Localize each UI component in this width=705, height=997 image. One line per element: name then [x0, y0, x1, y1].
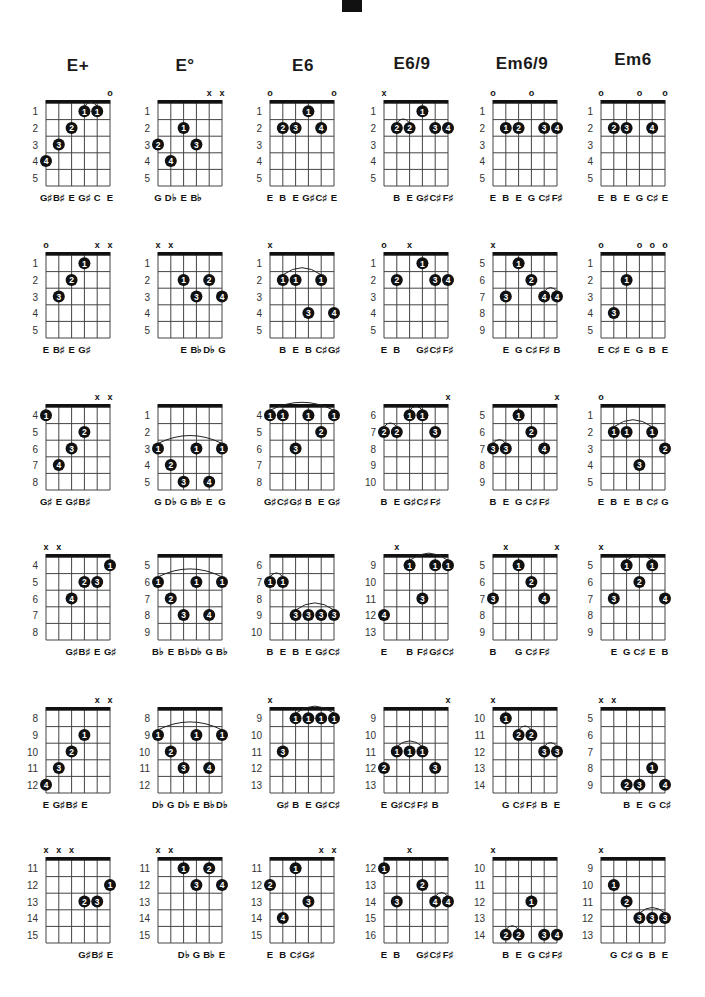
- note-label: B♭: [216, 646, 228, 657]
- note-label: G♯: [40, 192, 52, 203]
- note-label: C♯: [290, 949, 302, 960]
- finger-number: 1: [319, 714, 324, 724]
- note-label: G: [502, 799, 509, 810]
- fret-number: 8: [256, 594, 262, 605]
- note-label: G: [154, 496, 161, 507]
- fret-number: 2: [370, 123, 376, 134]
- fret-number: 3: [587, 292, 593, 303]
- note-label: C♯: [328, 799, 340, 810]
- note-label: G♯: [66, 646, 78, 657]
- nut-bar: [270, 252, 335, 256]
- finger-number: 3: [194, 292, 199, 302]
- note-label: B: [393, 192, 400, 203]
- finger-number: 2: [529, 427, 534, 437]
- finger-number: 1: [194, 444, 199, 454]
- note-label: E: [515, 949, 521, 960]
- nut-bar: [46, 707, 111, 711]
- finger-number: 4: [44, 156, 49, 166]
- finger-number: 1: [529, 897, 534, 907]
- note-label: F♯: [443, 344, 454, 355]
- finger-number: 1: [181, 864, 186, 874]
- chord-diagram: 12345oo1234EBEGC♯F♯: [463, 81, 573, 221]
- note-label: B: [541, 799, 548, 810]
- note-label: G: [167, 799, 174, 810]
- open-string-icon: o: [637, 240, 643, 250]
- nut-bar: [46, 404, 111, 408]
- note-label: E: [554, 799, 560, 810]
- nut-bar: [270, 100, 335, 104]
- nut-bar: [158, 554, 223, 558]
- fret-number: 1: [144, 410, 150, 421]
- fret-number: 5: [144, 477, 150, 488]
- finger-number: 1: [382, 864, 387, 874]
- fret-number: 11: [252, 747, 263, 758]
- finger-number: 2: [394, 123, 399, 133]
- note-label: G♯: [78, 949, 90, 960]
- muted-string-icon: x: [43, 542, 48, 552]
- note-label: E: [515, 192, 521, 203]
- note-label: B: [554, 344, 561, 355]
- note-label: G♯: [78, 192, 90, 203]
- finger-number: 2: [168, 594, 173, 604]
- fret-number: 5: [144, 173, 150, 184]
- fret-number: 7: [479, 444, 485, 455]
- fret-number: 2: [479, 123, 485, 134]
- note-label: B: [279, 192, 286, 203]
- note-label: B♯: [53, 192, 65, 203]
- note-label: E: [598, 496, 604, 507]
- fret-number: 6: [370, 410, 376, 421]
- note-label: G: [636, 949, 643, 960]
- fret-number: 6: [479, 275, 485, 286]
- note-label: E: [381, 799, 387, 810]
- fret-number: 10: [27, 747, 39, 758]
- note-label: B♭: [190, 192, 202, 203]
- finger-number: 2: [637, 577, 642, 587]
- finger-number: 3: [293, 610, 298, 620]
- fret-number: 12: [582, 913, 594, 924]
- note-label: C♯: [328, 646, 340, 657]
- note-label: E: [611, 646, 617, 657]
- finger-number: 3: [503, 444, 508, 454]
- finger-number: 3: [181, 477, 186, 487]
- finger-number: 1: [420, 411, 425, 421]
- finger-number: 2: [420, 880, 425, 890]
- finger-number: 3: [542, 747, 547, 757]
- note-label: E: [43, 344, 49, 355]
- nut-bar: [158, 707, 223, 711]
- open-string-icon: o: [662, 240, 668, 250]
- fret-number: 11: [583, 897, 594, 908]
- fret-number: 14: [139, 913, 151, 924]
- note-label: F♯: [552, 192, 563, 203]
- nut-bar: [46, 252, 111, 256]
- note-label: G♯: [302, 192, 314, 203]
- note-label: B: [305, 496, 312, 507]
- finger-number: 1: [306, 411, 311, 421]
- chord-diagram: 45678xx1234G♯B♯EG♯: [16, 535, 126, 675]
- finger-number: 3: [56, 140, 61, 150]
- fret-number: 2: [32, 123, 38, 134]
- note-label: E: [662, 949, 668, 960]
- finger-number: 3: [663, 913, 668, 923]
- finger-number: 2: [529, 577, 534, 587]
- finger-number: 2: [82, 427, 87, 437]
- finger-number: 1: [624, 561, 629, 571]
- note-label: E: [623, 496, 629, 507]
- note-label: C♯: [277, 496, 289, 507]
- note-label: E: [490, 192, 496, 203]
- finger-number: 4: [319, 123, 324, 133]
- note-label: E: [107, 192, 113, 203]
- muted-string-icon: x: [611, 695, 616, 705]
- chord-diagram: 12345o11234G♯B♯EG♯CE: [16, 81, 126, 221]
- muted-string-icon: x: [490, 240, 495, 250]
- fret-number: 9: [256, 713, 262, 724]
- fret-number: 12: [365, 610, 377, 621]
- note-label: G♯: [40, 496, 52, 507]
- chord-diagram: 56789x12344EGC♯F♯B: [463, 233, 573, 373]
- chord-diagram: 12345oxx123EB♯EG♯: [16, 233, 126, 373]
- fret-number: 9: [144, 627, 150, 638]
- chord-diagram: 1112131415xxx123G♯B♯E: [16, 838, 126, 978]
- fret-number: 6: [256, 560, 262, 571]
- note-label: B: [636, 496, 643, 507]
- fret-number: 8: [587, 763, 593, 774]
- fret-number: 13: [139, 897, 151, 908]
